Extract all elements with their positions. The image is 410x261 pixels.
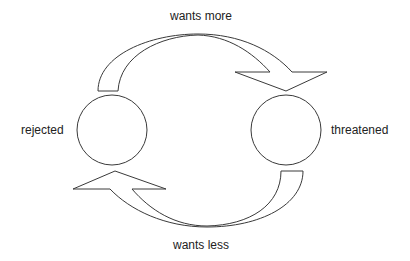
node-rejected-circle [77, 95, 147, 165]
edge-label-wants-more: wants more [170, 9, 232, 23]
node-threatened-circle [251, 95, 321, 165]
cycle-diagram: wants more wants less rejected threatene… [0, 0, 410, 261]
node-label-threatened: threatened [331, 123, 388, 137]
edge-label-wants-less: wants less [173, 238, 229, 252]
node-label-rejected: rejected [21, 123, 64, 137]
arrow-wants-less [73, 171, 303, 227]
arrow-wants-more [98, 34, 327, 91]
